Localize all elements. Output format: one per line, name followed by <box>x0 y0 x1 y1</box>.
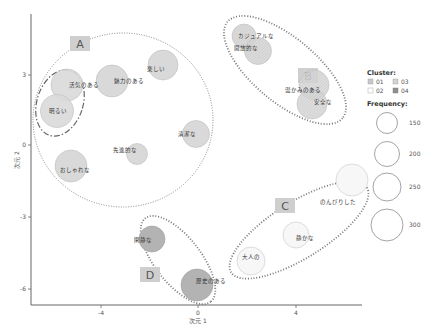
legend-swatch-04 <box>393 88 398 93</box>
y-tick-label: 0 <box>22 141 26 148</box>
legend-size-label: 200 <box>409 150 421 157</box>
bubble-label: カジュアルな <box>238 33 274 39</box>
bubble-oshare[interactable] <box>55 150 87 182</box>
legend-size-label: 300 <box>409 221 421 228</box>
bubble-rekishi[interactable] <box>181 269 213 301</box>
cluster-d-enclosure <box>127 204 229 316</box>
frequency-legend-title: Frequency: <box>367 100 408 108</box>
bubble-label: 先進的な <box>113 146 137 154</box>
bubble-label: 閑静な <box>134 236 152 244</box>
legend-size-label: 250 <box>409 183 421 190</box>
bubble-label: 明るい <box>49 108 67 115</box>
legend-size-200 <box>375 142 400 167</box>
cluster-legend-title: Cluster: <box>367 69 396 77</box>
legend-swatch-02 <box>368 88 373 93</box>
legend-size-300 <box>371 209 403 241</box>
bubble-label: 魅力のある <box>114 77 144 85</box>
legend-swatch-03 <box>393 79 398 84</box>
bubble-kaihou[interactable] <box>245 38 272 65</box>
bubble-otona[interactable] <box>237 247 265 275</box>
cluster-b-enclosure <box>207 0 363 143</box>
group-c-label: C <box>281 200 289 213</box>
legend-label-02: 02 <box>376 87 384 94</box>
bubble-label: 静かな <box>296 234 314 242</box>
legend-swatch-01 <box>368 79 373 84</box>
bubbles <box>41 24 369 301</box>
x-tick-label: 0 <box>196 309 200 316</box>
x-tick-label: 4 <box>294 309 298 316</box>
legend-size-250 <box>373 173 401 201</box>
bubble-label: おしゃれな <box>60 167 90 174</box>
legend: Cluster: 01 03 02 04 Frequency: 150 200 … <box>367 69 421 241</box>
bubble-label: 開放的な <box>234 44 258 52</box>
bubble-label: のんびりした <box>320 198 356 206</box>
x-tick-label: -4 <box>98 309 104 316</box>
y-tick-label: -6 <box>20 285 26 292</box>
bubble-chart: A B C D 活気のある 明るい 魅力のある 楽しい 清潔な <box>0 0 429 328</box>
bubble-label: 楽しい <box>147 65 165 73</box>
bubble-label: 清潔な <box>178 130 196 138</box>
bubble-label: 歴史のある <box>196 277 226 285</box>
bubble-nonbiri[interactable] <box>336 164 368 196</box>
bubble-label: 活気のある <box>69 81 99 89</box>
legend-label-01: 01 <box>376 78 384 85</box>
y-tick-label: 3 <box>22 71 26 78</box>
bubble-tanoshii[interactable] <box>148 50 178 80</box>
bubble-label: 大人の <box>242 253 260 261</box>
legend-size-label: 150 <box>409 119 421 126</box>
bubble-label: 安全な <box>314 98 332 106</box>
group-d-label: D <box>146 269 154 282</box>
bubble-label: 温かみのある <box>285 86 321 94</box>
legend-size-150 <box>377 113 398 134</box>
legend-label-03: 03 <box>401 78 409 85</box>
legend-label-04: 04 <box>401 87 409 94</box>
y-tick-label: -3 <box>20 213 26 220</box>
x-axis-title: 次元 1 <box>189 317 207 325</box>
y-axis-title: 次元 2 <box>13 151 21 169</box>
group-a-label: A <box>76 38 84 51</box>
